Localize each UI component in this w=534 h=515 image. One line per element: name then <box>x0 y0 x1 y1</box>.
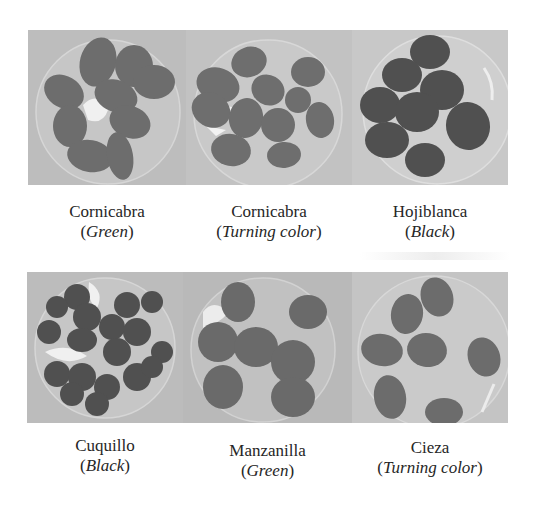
caption-cornicabra-green: Cornicabra (Green) <box>28 202 186 242</box>
photo-manzanilla-green <box>183 272 352 423</box>
caption-cieza-turning-color: Cieza (Turning color) <box>352 438 508 478</box>
photo-cieza-turning-color <box>352 272 508 423</box>
caption-cuquillo-black: Cuquillo (Black) <box>27 436 183 476</box>
variety-name: Manzanilla <box>183 441 352 461</box>
olive-dish-image <box>27 272 183 423</box>
variety-name: Hojiblanca <box>352 202 508 222</box>
olive-dish-image <box>28 30 186 185</box>
variety-name: Cornicabra <box>186 202 352 222</box>
variety-name: Cuquillo <box>27 436 183 456</box>
photo-cuquillo-black <box>27 272 183 423</box>
ripening-stage: (Turning color) <box>186 222 352 242</box>
ripening-stage: (Black) <box>27 456 183 476</box>
ripening-stage: (Black) <box>352 222 508 242</box>
caption-manzanilla-green: Manzanilla (Green) <box>183 441 352 481</box>
photo-cornicabra-green <box>28 30 186 185</box>
olive-dish-image <box>183 272 352 423</box>
ripening-stage: (Turning color) <box>352 458 508 478</box>
caption-cornicabra-turning-color: Cornicabra (Turning color) <box>186 202 352 242</box>
bleed-through-artifact <box>360 252 510 260</box>
variety-name: Cornicabra <box>28 202 186 222</box>
variety-name: Cieza <box>352 438 508 458</box>
olive-dish-image <box>352 272 508 423</box>
photo-hojiblanca-black <box>352 30 508 185</box>
caption-hojiblanca-black: Hojiblanca (Black) <box>352 202 508 242</box>
olive-dish-image <box>186 30 352 185</box>
ripening-stage: (Green) <box>28 222 186 242</box>
photo-cornicabra-turning-color <box>186 30 352 185</box>
ripening-stage: (Green) <box>183 461 352 481</box>
olive-dish-image <box>352 30 508 185</box>
